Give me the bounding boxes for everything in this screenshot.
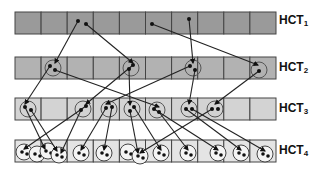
node-dot bbox=[216, 107, 220, 111]
hct3-cell bbox=[250, 98, 276, 120]
hct1-cell bbox=[15, 12, 41, 34]
hct-hierarchy-diagram bbox=[0, 0, 313, 173]
hct4-cluster-circle bbox=[180, 145, 196, 161]
node-dot bbox=[100, 151, 104, 155]
node-dot bbox=[190, 107, 194, 111]
node-dot bbox=[44, 149, 48, 153]
node-dot bbox=[84, 104, 88, 108]
node-dot bbox=[132, 105, 136, 109]
node-dot bbox=[136, 154, 140, 158]
node-dot bbox=[127, 67, 131, 71]
node-dot bbox=[214, 151, 218, 155]
hct4-cluster-circle bbox=[233, 145, 249, 161]
node-dot bbox=[257, 69, 261, 73]
hct1-cell bbox=[198, 12, 224, 34]
hct1-cell bbox=[119, 12, 145, 34]
hct1-cell bbox=[41, 12, 67, 34]
node-dot bbox=[266, 154, 270, 158]
hct3-cell bbox=[41, 98, 67, 120]
node-dot bbox=[152, 107, 156, 111]
hct4-cluster-circle bbox=[73, 145, 89, 161]
node-dot bbox=[20, 150, 24, 154]
hct1-cell bbox=[172, 12, 198, 34]
node-dot bbox=[60, 155, 64, 159]
node-dot bbox=[105, 153, 109, 157]
node-dot bbox=[33, 152, 37, 156]
hct4-cluster-circle bbox=[153, 145, 169, 161]
hct2-cell bbox=[15, 57, 41, 79]
hct3-cell bbox=[224, 98, 250, 120]
node-dot bbox=[157, 151, 161, 155]
hct4-cluster-circle bbox=[51, 147, 67, 163]
row-label-hct3: HCT3 bbox=[279, 101, 308, 116]
node-dot bbox=[76, 19, 80, 23]
node-dot bbox=[162, 153, 166, 157]
hct2-cell bbox=[198, 57, 224, 79]
node-dot bbox=[237, 151, 241, 155]
hct4-cluster-circle bbox=[132, 148, 148, 164]
node-dot bbox=[242, 153, 246, 157]
node-dot bbox=[141, 156, 145, 160]
node-dot bbox=[53, 68, 57, 72]
hct2-cell bbox=[93, 57, 119, 79]
hct4-cluster-circle bbox=[210, 145, 226, 161]
node-dot bbox=[261, 152, 265, 156]
node-dot bbox=[77, 151, 81, 155]
hct1-cell bbox=[146, 12, 172, 34]
node-dot bbox=[131, 63, 135, 67]
node-dot bbox=[48, 64, 52, 68]
node-dot bbox=[193, 68, 197, 72]
node-dot bbox=[84, 22, 88, 26]
node-dot bbox=[184, 151, 188, 155]
node-dot bbox=[187, 17, 191, 21]
node-dot bbox=[79, 108, 83, 112]
row-label-hct2: HCT2 bbox=[279, 60, 308, 75]
node-dot bbox=[189, 153, 193, 157]
node-dot bbox=[128, 109, 132, 113]
node-dot bbox=[150, 22, 154, 26]
node-dot bbox=[104, 106, 108, 110]
node-dot bbox=[55, 153, 59, 157]
node-dot bbox=[25, 152, 29, 156]
hct1-cell bbox=[224, 12, 250, 34]
node-dot bbox=[157, 110, 161, 114]
node-dot bbox=[23, 105, 27, 109]
node-dot bbox=[210, 107, 214, 111]
node-dot bbox=[124, 150, 128, 154]
node-dot bbox=[82, 153, 86, 157]
hct1-cell bbox=[67, 12, 93, 34]
hct1-cell bbox=[250, 12, 276, 34]
node-dot bbox=[29, 108, 33, 112]
node-dot bbox=[188, 64, 192, 68]
node-dot bbox=[110, 105, 114, 109]
node-dot bbox=[219, 153, 223, 157]
row-label-hct1: HCT1 bbox=[279, 13, 308, 28]
hct1-cell bbox=[93, 12, 119, 34]
node-dot bbox=[184, 107, 188, 111]
row-label-hct4: HCT4 bbox=[279, 143, 308, 158]
